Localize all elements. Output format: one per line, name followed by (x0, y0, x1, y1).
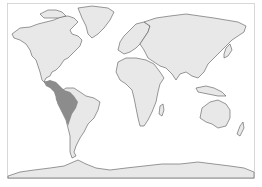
antarctica (8, 160, 254, 178)
madagascar (159, 104, 164, 116)
africa (116, 58, 164, 126)
world-map (0, 0, 262, 187)
north-america (12, 16, 82, 82)
greenland (78, 6, 114, 38)
australia (200, 100, 230, 128)
new-zealand (237, 122, 244, 136)
arctic-islands (40, 10, 66, 18)
southeast-asia-islands (196, 86, 226, 96)
map-canvas (0, 0, 262, 187)
